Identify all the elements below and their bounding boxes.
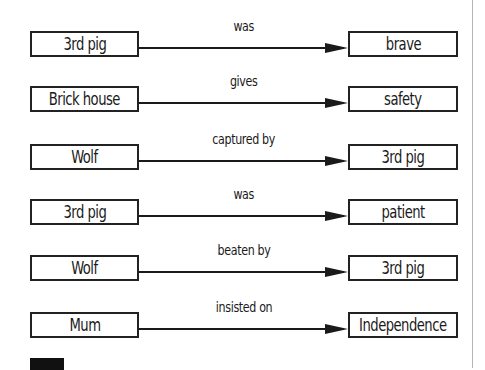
source-label: Brick house [49, 89, 120, 109]
relation-text: gives [230, 73, 258, 89]
target-label: 3rd pig [382, 147, 425, 167]
source-node: Brick house [30, 86, 139, 112]
target-node: 3rd pig [348, 255, 458, 281]
source-node: 3rd pig [30, 199, 139, 225]
black-marker [30, 358, 64, 370]
relation-label: gives [140, 73, 348, 89]
source-label: Wolf [71, 258, 97, 278]
target-node: Independence [348, 312, 458, 338]
relation-label: was [140, 18, 348, 34]
source-node: Wolf [30, 255, 139, 281]
source-node: Wolf [30, 144, 139, 170]
relation-text: beaten by [218, 242, 271, 258]
arrow-right-icon [139, 211, 348, 221]
target-node: brave [348, 31, 458, 57]
source-label: 3rd pig [63, 202, 106, 222]
arrow-right-icon [139, 98, 348, 108]
relation-row: Mum insisted on Independence [0, 305, 485, 345]
target-label: patient [381, 202, 424, 222]
source-label: Wolf [71, 147, 97, 167]
page-divider [472, 0, 473, 368]
relation-row: 3rd pig was patient [0, 192, 485, 232]
arrow-right-icon [139, 324, 348, 334]
target-label: safety [384, 89, 421, 109]
relation-text: was [234, 186, 255, 202]
relation-label: beaten by [140, 242, 348, 258]
relation-label: captured by [140, 131, 348, 147]
target-node: 3rd pig [348, 144, 458, 170]
relation-label: was [140, 186, 348, 202]
target-label: 3rd pig [382, 258, 425, 278]
source-node: Mum [30, 312, 139, 338]
relation-row: Brick house gives safety [0, 79, 485, 119]
target-node: safety [348, 86, 458, 112]
target-label: Independence [359, 315, 446, 335]
relation-text: insisted on [216, 299, 272, 315]
source-label: Mum [69, 315, 100, 335]
arrow-right-icon [139, 156, 348, 166]
relation-row: Wolf beaten by 3rd pig [0, 248, 485, 288]
relation-label: insisted on [140, 299, 348, 315]
target-label: brave [385, 34, 420, 54]
relation-text: captured by [213, 131, 276, 147]
arrow-right-icon [139, 43, 348, 53]
arrow-right-icon [139, 267, 348, 277]
target-node: patient [348, 199, 458, 225]
relation-text: was [234, 18, 255, 34]
source-node: 3rd pig [30, 31, 139, 57]
relation-row: Wolf captured by 3rd pig [0, 137, 485, 177]
relation-row: 3rd pig was brave [0, 24, 485, 64]
source-label: 3rd pig [63, 34, 106, 54]
